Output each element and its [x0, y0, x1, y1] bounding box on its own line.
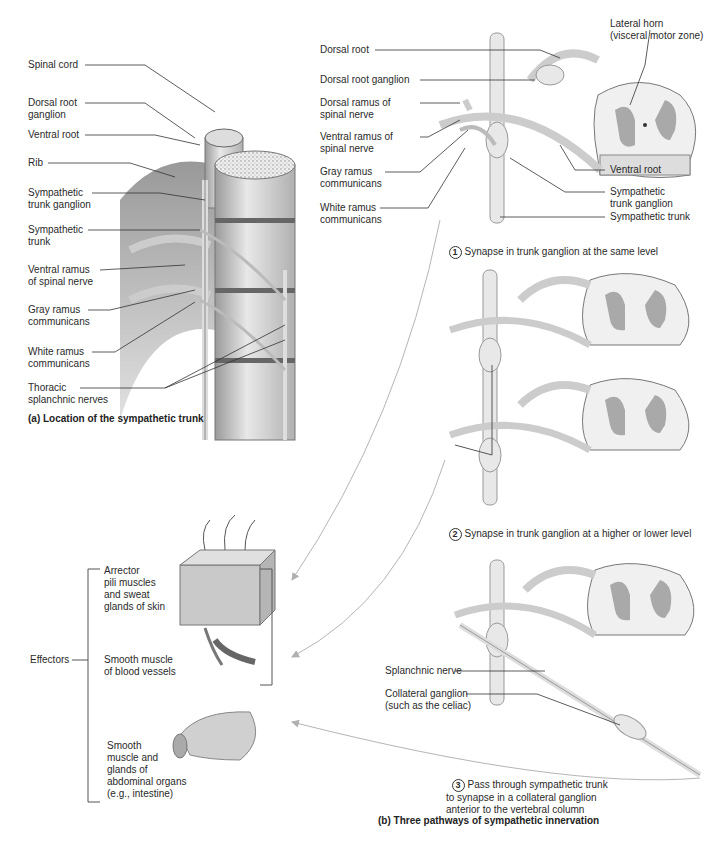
blood-vessel-illustration	[205, 628, 255, 665]
label-white-ramus-a: White ramus communicans	[28, 346, 90, 370]
effector-blood-vessels: Smooth muscle of blood vessels	[104, 654, 176, 678]
pathway-3-caption: 3Pass through sympathetic trunk to synap…	[446, 767, 608, 816]
label-white-ramus-b: White ramus communicans	[320, 202, 382, 226]
label-collateral-ganglion: Collateral ganglion (such as the celiac)	[385, 688, 471, 712]
effector-skin: Arrector pili muscles and sweat glands o…	[104, 565, 165, 613]
label-ventral-ramus-a: Ventral ramus of spinal nerve	[28, 264, 93, 288]
label-lateral-horn: Lateral horn (visceral motor zone)	[610, 18, 703, 42]
pathway-number-2: 2	[449, 528, 462, 541]
pathway-2-illustration	[450, 270, 689, 505]
pathway-1-caption: 1Synapse in trunk ganglion at the same l…	[443, 234, 658, 259]
label-rib: Rib	[28, 157, 43, 169]
pathway-number-3: 3	[452, 779, 465, 792]
caption-panel-a: (a) Location of the sympathetic trunk	[28, 413, 204, 424]
label-thoracic-splanchnic: Thoracic splanchnic nerves	[28, 382, 108, 406]
caption-panel-b: (b) Three pathways of sympathetic innerv…	[378, 815, 599, 826]
label-splanchnic-nerve: Splanchnic nerve	[385, 665, 462, 677]
label-dorsal-root: Dorsal root	[320, 44, 369, 56]
label-sympathetic-trunk-a: Sympathetic trunk	[28, 224, 83, 248]
label-ventral-root-a: Ventral root	[28, 129, 79, 141]
label-dorsal-ramus: Dorsal ramus of spinal nerve	[320, 97, 391, 121]
label-sympathetic-trunk-ganglion-b: Sympathetic trunk ganglion	[610, 186, 673, 210]
label-ventral-ramus-b: Ventral ramus of spinal nerve	[320, 131, 393, 155]
effector-abdominal-organs: Smooth muscle and glands of abdominal or…	[107, 740, 187, 800]
panel-b3-leader-lines	[455, 671, 620, 725]
vertebral-column-illustration	[120, 129, 295, 440]
pathway-3-illustration	[455, 560, 700, 775]
label-sympathetic-trunk-b: Sympathetic trunk	[610, 211, 690, 223]
label-gray-ramus-a: Gray ramus communicans	[28, 304, 90, 328]
sympathetic-trunk-1	[440, 33, 600, 223]
label-gray-ramus-b: Gray ramus communicans	[320, 166, 382, 190]
pathway-number-1: 1	[449, 246, 462, 259]
pathway-2-caption: 2Synapse in trunk ganglion at a higher o…	[443, 516, 691, 541]
label-dorsal-root-ganglion-a: Dorsal root ganglion	[28, 97, 77, 121]
label-sympathetic-trunk-ganglion-a: Sympathetic trunk ganglion	[28, 187, 91, 211]
label-spinal-cord: Spinal cord	[28, 59, 78, 71]
label-ventral-root-b: Ventral root	[610, 164, 661, 176]
skin-illustration	[180, 515, 275, 625]
label-dorsal-root-ganglion-b: Dorsal root ganglion	[320, 74, 410, 86]
effectors-title: Effectors	[30, 654, 69, 666]
